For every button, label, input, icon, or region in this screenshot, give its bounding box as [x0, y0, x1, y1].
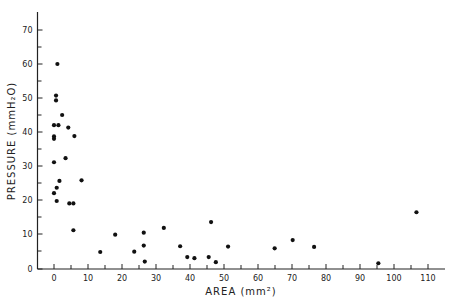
data-point: [209, 220, 213, 224]
data-point: [192, 256, 196, 260]
data-point: [52, 191, 56, 195]
y-tick-label: 0: [27, 265, 32, 274]
x-tick-label: 40: [185, 274, 195, 283]
data-point: [55, 186, 59, 190]
y-tick-label: 50: [22, 94, 32, 103]
x-axis-title: AREA (mm²): [205, 286, 276, 297]
y-tick-label: 20: [22, 196, 32, 205]
data-point: [60, 113, 64, 117]
data-point: [226, 244, 230, 248]
x-tick-label: 110: [420, 274, 435, 283]
data-point: [56, 123, 60, 127]
data-point: [143, 259, 147, 263]
data-point: [142, 243, 146, 247]
data-point: [66, 125, 70, 129]
data-points: [52, 62, 419, 265]
y-tick-label: 30: [22, 162, 32, 171]
data-point: [376, 261, 380, 265]
data-point: [291, 238, 295, 242]
scatter-chart: 010203040506070 010203040506070809010011…: [0, 0, 456, 301]
data-point: [312, 245, 316, 249]
data-point: [178, 244, 182, 248]
x-tick-label: 70: [287, 274, 297, 283]
x-axis-ticks: 0102030405060708090100110: [51, 264, 435, 283]
data-point: [185, 255, 189, 259]
data-point: [54, 98, 58, 102]
x-tick-label: 100: [386, 274, 401, 283]
y-tick-label: 70: [22, 26, 32, 35]
x-tick-label: 0: [51, 274, 56, 283]
data-point: [55, 62, 59, 66]
data-point: [142, 231, 146, 235]
y-tick-label: 40: [22, 128, 32, 137]
data-point: [57, 179, 61, 183]
data-point: [63, 156, 67, 160]
y-tick-label: 10: [22, 230, 32, 239]
x-tick-label: 80: [321, 274, 331, 283]
data-point: [113, 233, 117, 237]
x-tick-label: 90: [355, 274, 365, 283]
data-point: [72, 134, 76, 138]
y-axis-title: PRESSURE (mmH₂O): [6, 82, 17, 200]
data-point: [52, 160, 56, 164]
x-tick-label: 10: [83, 274, 93, 283]
data-point: [162, 226, 166, 230]
data-point: [273, 246, 277, 250]
data-point: [67, 201, 71, 205]
data-point: [52, 137, 56, 141]
data-point: [214, 260, 218, 264]
x-tick-label: 20: [117, 274, 127, 283]
y-axis-ticks: 010203040506070: [22, 26, 42, 274]
x-tick-label: 60: [253, 274, 263, 283]
data-point: [71, 228, 75, 232]
data-point: [71, 201, 75, 205]
x-tick-label: 50: [219, 274, 229, 283]
data-point: [414, 210, 418, 214]
data-point: [98, 250, 102, 254]
data-point: [52, 123, 56, 127]
y-tick-label: 60: [22, 60, 32, 69]
data-point: [54, 94, 58, 98]
axes: [38, 12, 446, 269]
data-point: [79, 178, 83, 182]
data-point: [132, 250, 136, 254]
data-point: [55, 199, 59, 203]
data-point: [207, 255, 211, 259]
x-tick-label: 30: [151, 274, 161, 283]
